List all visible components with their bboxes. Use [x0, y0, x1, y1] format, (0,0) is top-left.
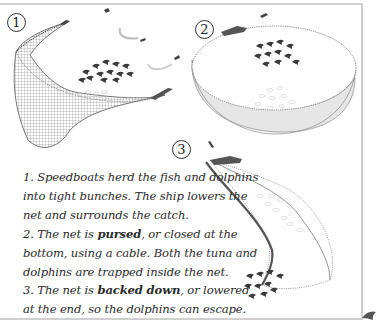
speedboat-icon [60, 20, 70, 25]
step-1-text: 1. Speedboats herd the fish and dolphins… [23, 168, 263, 225]
step2-net [192, 26, 356, 134]
speedboat-icon [208, 141, 214, 148]
step-2-marker: 2 [195, 20, 214, 39]
speedboat-icon [260, 13, 268, 18]
speedboat-icon [140, 38, 146, 42]
caption: 1. Speedboats herd the fish and dolphins… [23, 168, 263, 319]
step-3-text: 3. The net is backed down, or lowered at… [23, 281, 263, 319]
term-backed-down: backed down [97, 283, 180, 297]
speedboat-icon [174, 55, 180, 60]
step-2-text: 2. The net is pursed, or closed at the b… [23, 225, 263, 282]
speedboat-icon [104, 8, 110, 13]
term-pursed: pursed [97, 227, 141, 241]
step-1-marker: 1 [7, 13, 26, 32]
step-3-marker: 3 [172, 140, 191, 159]
tuna-school [257, 195, 303, 232]
ship-icon [210, 156, 242, 165]
dolphin-school [78, 60, 134, 83]
ship-icon [150, 88, 173, 100]
dolphin-escaped-icon [362, 312, 376, 320]
